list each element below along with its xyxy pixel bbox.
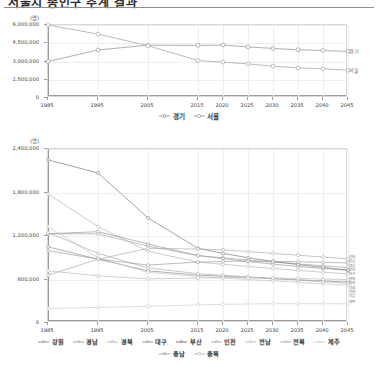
x-axis-tick-label: 1985 — [40, 102, 53, 108]
y-axis-tick-label: 1,500,000 — [0, 76, 39, 82]
x-axis-tick-mark — [222, 97, 223, 100]
x-axis-tick-mark — [272, 97, 273, 100]
legend-swatch-icon — [176, 339, 187, 345]
legend-item[interactable]: 전북 — [280, 337, 306, 346]
legend-label: 경기 — [173, 111, 185, 121]
x-axis-tick-label: 2045 — [340, 102, 353, 108]
series-marker — [197, 277, 200, 280]
x-axis-tick-mark — [97, 322, 98, 325]
legend-item[interactable]: 대구 — [142, 337, 168, 346]
series-marker — [322, 278, 325, 281]
x-axis-tick-mark — [322, 97, 323, 100]
series-marker — [221, 43, 225, 47]
legend-swatch-icon — [245, 339, 256, 345]
plot-area-bottom — [47, 148, 347, 322]
x-axis-tick-mark — [197, 97, 198, 100]
legend-item[interactable]: 충북 — [194, 349, 220, 358]
series-marker — [222, 248, 225, 251]
series-line — [48, 160, 348, 270]
x-axis-tick-label: 2045 — [340, 327, 353, 333]
legend-swatch-icon — [280, 339, 291, 345]
series-marker — [272, 277, 275, 280]
legend-item[interactable]: 경북 — [107, 337, 133, 346]
legend-item[interactable]: 경기 — [159, 111, 185, 121]
series-marker — [272, 260, 275, 263]
y-axis-tick-label: 600,000 — [0, 276, 39, 282]
x-axis-tick-label: 1995 — [90, 102, 103, 108]
y-axis-unit-label: (명) — [30, 137, 39, 144]
series-marker — [297, 269, 300, 272]
series-marker — [96, 32, 100, 36]
legend-swatch-icon — [73, 339, 84, 345]
x-axis-tick-label: 1995 — [90, 327, 103, 333]
legend-item[interactable]: 충남 — [159, 349, 185, 358]
series-marker — [47, 245, 50, 248]
legend-label: 제주 — [328, 337, 340, 346]
series-marker — [297, 277, 300, 280]
series-marker — [47, 192, 50, 195]
series-marker — [296, 66, 300, 70]
legend-item[interactable]: 강원 — [38, 337, 64, 346]
series-marker — [322, 271, 325, 274]
series-end-label: 전남 — [349, 296, 355, 300]
series-marker — [47, 225, 50, 228]
series-marker — [222, 303, 225, 306]
x-axis-tick-label: 2035 — [290, 102, 303, 108]
legend-label: 서울 — [207, 111, 219, 121]
series-marker — [97, 274, 100, 277]
x-axis-tick-label: 2020 — [215, 102, 228, 108]
legend-label: 전남 — [259, 337, 271, 346]
series-marker — [271, 47, 275, 51]
x-axis-tick-mark — [222, 322, 223, 325]
legend-swatch-icon — [107, 339, 118, 345]
y-axis-tick-label: 0 — [0, 94, 39, 100]
series-marker — [197, 261, 200, 264]
series-marker — [47, 158, 50, 161]
series-marker — [147, 305, 150, 308]
legend-item[interactable]: 전남 — [245, 337, 271, 346]
x-axis-tick-mark — [347, 97, 348, 100]
x-axis-tick-label: 2005 — [140, 102, 153, 108]
series-marker — [222, 252, 225, 255]
series-marker — [247, 260, 250, 263]
series-marker — [47, 274, 50, 277]
series-end-label: 제주 — [349, 301, 355, 305]
series-end-label: 경기 — [349, 47, 359, 54]
series-marker — [147, 264, 150, 267]
legend-item[interactable]: 경남 — [73, 337, 99, 346]
y-axis-tick-mark — [44, 279, 47, 280]
legend-item[interactable]: 제주 — [314, 337, 340, 346]
series-marker — [297, 260, 300, 263]
series-marker — [196, 59, 200, 63]
legend-label: 강원 — [52, 337, 64, 346]
legend-item[interactable]: 인천 — [211, 337, 237, 346]
series-marker — [297, 302, 300, 305]
series-marker — [222, 276, 225, 279]
x-axis-tick-mark — [297, 97, 298, 100]
series-marker — [322, 261, 325, 264]
legend-label: 부산 — [190, 337, 202, 346]
series-marker — [271, 64, 275, 68]
legend-swatch-icon — [142, 339, 153, 345]
x-axis-tick-mark — [97, 97, 98, 100]
series-marker — [147, 247, 150, 250]
y-axis-tick-label: 6,000,000 — [0, 21, 39, 27]
series-marker — [147, 277, 150, 280]
y-axis-tick-label: 0 — [0, 319, 39, 325]
series-layer — [48, 25, 348, 98]
legend-label: 경남 — [86, 337, 98, 346]
x-axis-tick-label: 2030 — [265, 102, 278, 108]
y-axis-tick-mark — [44, 79, 47, 80]
series-marker — [247, 256, 250, 259]
series-marker — [97, 171, 100, 174]
series-marker — [197, 272, 200, 275]
series-marker — [247, 276, 250, 279]
x-axis-tick-mark — [322, 322, 323, 325]
y-axis-tick-label: 1,200,000 — [0, 232, 39, 238]
x-axis-tick-mark — [47, 322, 48, 325]
legend-item[interactable]: 서울 — [194, 111, 220, 121]
x-axis-tick-label: 2025 — [240, 102, 253, 108]
legend-swatch-icon — [194, 113, 205, 119]
series-marker — [97, 225, 100, 228]
legend-item[interactable]: 부산 — [176, 337, 202, 346]
